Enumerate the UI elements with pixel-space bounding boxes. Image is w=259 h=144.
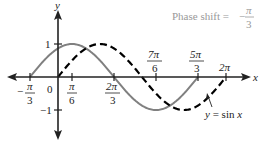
x-tick-label-5pi-3: 5π 3: [189, 48, 204, 74]
svg-text:π: π: [69, 80, 75, 92]
svg-text:5π: 5π: [190, 48, 202, 60]
svg-text:π: π: [246, 4, 252, 16]
svg-text:6: 6: [152, 62, 158, 74]
x-tick-label-2pi-3: 2π 3: [105, 80, 120, 106]
svg-text:3: 3: [246, 18, 252, 30]
phase-shift-chart: x y 1 −1 0 − π 3 π 6 2π 3 7π 6 5π 3 2π P…: [0, 0, 259, 144]
phase-shift-annotation: Phase shift = − π 3: [172, 4, 254, 30]
svg-text:3: 3: [110, 94, 116, 106]
x-tick-label-7pi-6: 7π 6: [147, 48, 162, 74]
x-tick-label-neg-pi-3: − π 3: [17, 80, 35, 106]
svg-text:y = sin x: y = sin x: [204, 108, 242, 120]
y-axis-label: y: [54, 0, 60, 11]
x-tick-label-pi-6: π 6: [67, 80, 77, 106]
x-axis-label: x: [252, 71, 258, 83]
pointer-arrow-icon: [206, 93, 210, 99]
svg-text:3: 3: [194, 62, 200, 74]
origin-label: 0: [47, 83, 53, 95]
curve-label-sin-x: y = sin x: [204, 93, 242, 120]
svg-text:6: 6: [69, 94, 75, 106]
svg-text:Phase shift =: Phase shift =: [172, 10, 229, 22]
svg-text:3: 3: [27, 94, 33, 106]
svg-text:−: −: [239, 10, 245, 22]
svg-text:2π: 2π: [106, 80, 118, 92]
y-tick-label-neg1: −1: [40, 104, 52, 116]
svg-text:π: π: [27, 80, 33, 92]
svg-text:7π: 7π: [148, 48, 160, 60]
svg-text:−: −: [17, 85, 23, 97]
x-tick-label-2pi: 2π: [219, 61, 231, 73]
x-axis: [7, 73, 251, 81]
y-tick-label-1: 1: [45, 38, 51, 50]
